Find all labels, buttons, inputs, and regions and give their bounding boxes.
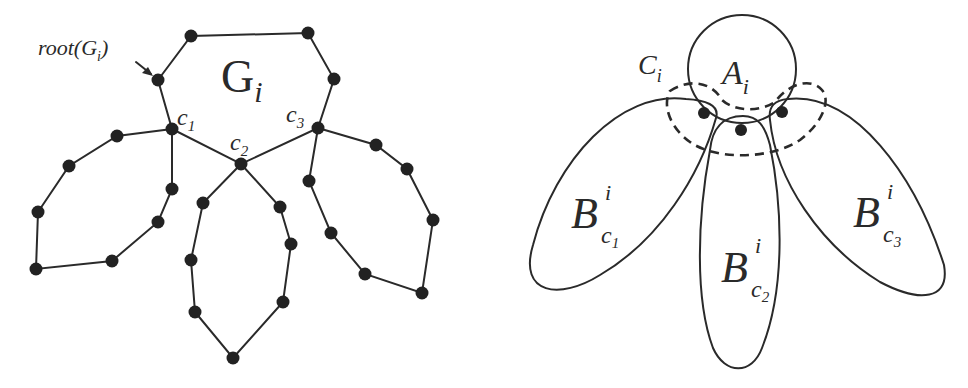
- node: [185, 254, 198, 267]
- c2-label: c2: [230, 129, 249, 159]
- node: [185, 30, 198, 43]
- node: [302, 27, 315, 40]
- node: [325, 227, 338, 240]
- block-b-c2-label: B: [721, 243, 748, 292]
- cut-c-i-label: Ci: [638, 49, 662, 86]
- node: [30, 263, 43, 276]
- node: [401, 163, 414, 176]
- node-c3: [312, 122, 325, 135]
- node: [166, 183, 179, 196]
- node: [152, 216, 165, 229]
- core-a-i-label: Ai: [720, 54, 749, 99]
- c3-label: c3: [286, 101, 304, 131]
- node: [32, 206, 45, 219]
- block-b-c3-sup: i: [887, 179, 893, 204]
- node: [359, 268, 372, 281]
- cut-vertex-c2-dot: [735, 124, 747, 136]
- node: [303, 175, 316, 188]
- cut-vertex-c3-dot: [776, 106, 788, 118]
- block-b-c1-shape: [530, 98, 717, 289]
- node: [328, 73, 341, 86]
- left-cycle-edges: [36, 129, 172, 269]
- node-c2: [235, 158, 248, 171]
- node: [63, 160, 76, 173]
- block-b-c1-label: B: [571, 189, 598, 238]
- node: [277, 296, 290, 309]
- node: [111, 130, 124, 143]
- block-b-c3-sub: c3: [883, 221, 901, 250]
- cut-vertex-c1-dot: [698, 107, 710, 119]
- node: [227, 352, 240, 365]
- block-b-c1-sub: c1: [601, 222, 619, 251]
- node: [370, 139, 383, 152]
- node: [427, 214, 440, 227]
- node: [285, 238, 298, 251]
- root-node: [152, 74, 165, 87]
- node: [274, 201, 287, 214]
- graph-title-label: Gi: [221, 51, 263, 108]
- block-b-c1-sup: i: [605, 180, 611, 205]
- figure-canvas: root(Gi) Gi c1 c2 c3 Ai: [0, 0, 968, 388]
- block-b-c3-label: B: [853, 188, 880, 237]
- block-b-c2-sup: i: [755, 233, 761, 258]
- node: [416, 287, 429, 300]
- graph-g-i: root(Gi) Gi c1 c2 c3: [30, 27, 440, 365]
- node: [197, 197, 210, 210]
- decomposition-diagram: Ai Ci B i c1 B i c2 B i c3: [530, 15, 945, 368]
- node: [189, 306, 202, 319]
- block-b-c2-sub: c2: [751, 276, 770, 305]
- root-label: root(Gi): [38, 35, 108, 64]
- root-arrow-icon: [136, 62, 153, 76]
- c1-label: c1: [177, 104, 195, 134]
- middle-cycle-edges: [191, 164, 291, 358]
- node: [106, 255, 119, 268]
- right-cycle-edges: [309, 128, 433, 293]
